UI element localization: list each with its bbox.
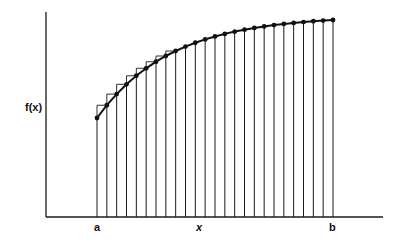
curve-point [331,18,336,23]
curve-point [144,66,149,71]
curve-point [95,116,100,121]
curve-point [183,44,188,49]
curve-point [311,19,316,24]
curve-point [203,37,208,42]
curve-point [193,40,198,45]
upper-bound-label-b: b [329,222,336,233]
curve-point [262,24,267,29]
partition-lines [97,20,333,217]
lower-bound-label-a: a [94,222,100,233]
curve-point [222,31,227,36]
y-axis-label: f(x) [25,102,42,113]
curve-point [154,59,159,64]
curve-point [124,82,129,87]
curve-point [213,34,218,39]
curve-point [252,26,257,31]
x-axis-label: x [196,222,202,233]
curve-point [242,27,247,32]
curve-point [114,92,119,97]
curve-point [163,54,168,59]
curve-point [321,18,326,23]
curve-point [104,103,109,108]
curve-point [291,21,296,26]
plot-canvas [0,0,411,252]
riemann-sum-diagram: f(x) x a b [0,0,411,252]
curve-point [281,22,286,27]
curve-point [301,20,306,25]
curve-point [232,29,237,34]
curve-point [272,23,277,28]
curve-point [173,49,178,54]
curve-point [134,73,139,78]
